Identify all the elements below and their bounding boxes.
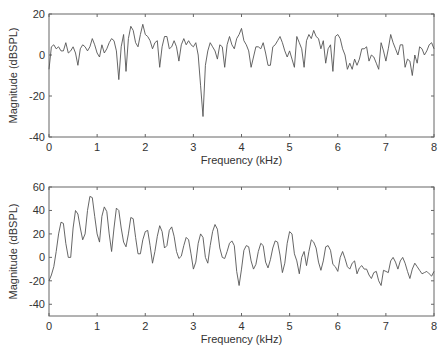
y-tick-label: -20 xyxy=(29,275,45,287)
x-tick-label: 4 xyxy=(238,141,244,153)
spectrum-line xyxy=(49,24,434,116)
plot-frame xyxy=(49,14,434,137)
y-tick-label: -40 xyxy=(29,131,45,143)
y-tick-label: 40 xyxy=(33,204,45,216)
y-tick-label: 60 xyxy=(33,181,45,193)
x-axis-label: Frequency (kHz) xyxy=(201,333,282,345)
figure: 012345678-40-20020Frequency (kHz)Magnitu… xyxy=(0,0,445,347)
y-tick-label: -20 xyxy=(29,90,45,102)
x-tick-label: 2 xyxy=(142,320,148,332)
y-tick-label: 0 xyxy=(39,49,45,61)
x-tick-label: 3 xyxy=(190,141,196,153)
x-tick-label: 1 xyxy=(94,320,100,332)
x-tick-label: 0 xyxy=(46,320,52,332)
bottom-spectrum-plot: 012345678-40-200204060Frequency (kHz)Mag… xyxy=(7,181,437,345)
y-tick-label: -40 xyxy=(29,298,45,310)
x-tick-label: 4 xyxy=(238,320,244,332)
y-tick-label: 20 xyxy=(33,228,45,240)
y-axis-label: Magnitude (dBSPL) xyxy=(7,28,19,124)
x-tick-label: 7 xyxy=(383,320,389,332)
y-tick-label: 0 xyxy=(39,251,45,263)
x-tick-label: 2 xyxy=(142,141,148,153)
x-tick-label: 1 xyxy=(94,141,100,153)
x-tick-label: 5 xyxy=(287,320,293,332)
x-tick-label: 3 xyxy=(190,320,196,332)
x-tick-label: 6 xyxy=(335,320,341,332)
x-tick-label: 5 xyxy=(287,141,293,153)
plot-frame xyxy=(49,187,434,316)
y-tick-label: 20 xyxy=(33,8,45,20)
y-axis-label: Magnitude (dBSPL) xyxy=(7,204,19,300)
x-axis-label: Frequency (kHz) xyxy=(201,154,282,166)
x-tick-label: 7 xyxy=(383,141,389,153)
spectrum-line xyxy=(49,196,434,285)
x-tick-label: 8 xyxy=(431,320,437,332)
x-tick-label: 8 xyxy=(431,141,437,153)
top-spectrum-plot: 012345678-40-20020Frequency (kHz)Magnitu… xyxy=(7,8,437,166)
x-tick-label: 0 xyxy=(46,141,52,153)
x-tick-label: 6 xyxy=(335,141,341,153)
